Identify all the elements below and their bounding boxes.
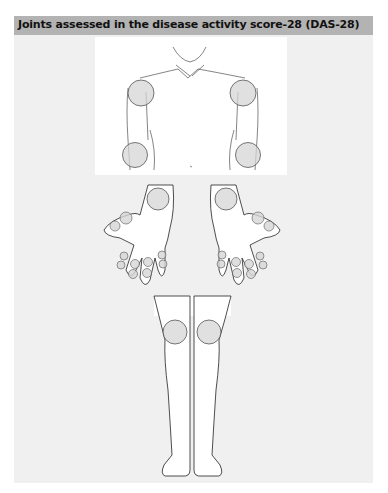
elbow-joint-left <box>236 143 261 168</box>
wrist-joint-right <box>147 188 169 210</box>
knee-joint-right <box>163 320 187 344</box>
knee-joint-left <box>197 320 221 344</box>
wrist-joint-left <box>215 188 237 210</box>
body-diagram <box>0 0 388 493</box>
legs-figure <box>154 296 231 476</box>
elbow-joint-right <box>123 143 148 168</box>
shoulder-joint-left <box>230 80 256 106</box>
shoulder-joint-right <box>128 80 154 106</box>
